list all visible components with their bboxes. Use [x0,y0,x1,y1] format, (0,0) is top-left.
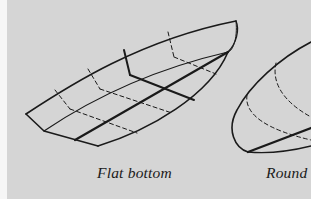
round-bottom-hull-drawing [232,42,311,153]
caption-round-bottom: Round [266,164,307,182]
flat-bottom-hull-drawing [26,21,238,146]
caption-flat-bottom: Flat bottom [97,164,172,182]
